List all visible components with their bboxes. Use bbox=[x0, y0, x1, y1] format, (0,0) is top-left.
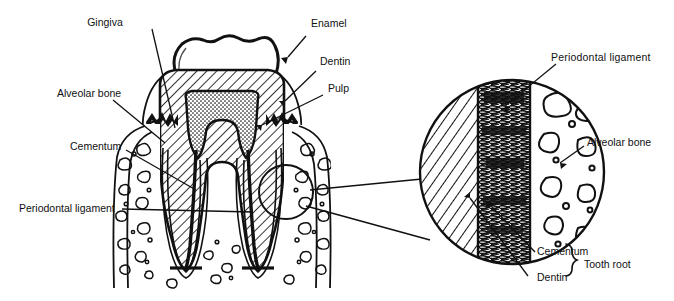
magnified-inset bbox=[420, 80, 604, 264]
label-alveolar-bone-right: Alveolar bone bbox=[587, 136, 651, 148]
label-dentin-top: Dentin bbox=[320, 55, 351, 67]
diagram-canvas: Gingiva Alveolar bone Cementum Periodont… bbox=[0, 0, 674, 301]
label-cementum-inset: Cementum bbox=[537, 245, 589, 257]
label-tooth-root: Tooth root bbox=[584, 258, 631, 270]
label-periodontal-ligament-right: Periodontal ligament bbox=[551, 51, 651, 63]
label-alveolar-bone-left: Alveolar bone bbox=[57, 87, 121, 99]
label-pulp: Pulp bbox=[328, 82, 349, 94]
label-dentin-inset: Dentin bbox=[537, 271, 568, 283]
label-cementum-left: Cementum bbox=[70, 140, 122, 152]
label-enamel: Enamel bbox=[311, 17, 347, 29]
label-periodontal-ligament-left: Periodontal ligament bbox=[19, 202, 115, 214]
label-gingiva: Gingiva bbox=[87, 16, 123, 28]
